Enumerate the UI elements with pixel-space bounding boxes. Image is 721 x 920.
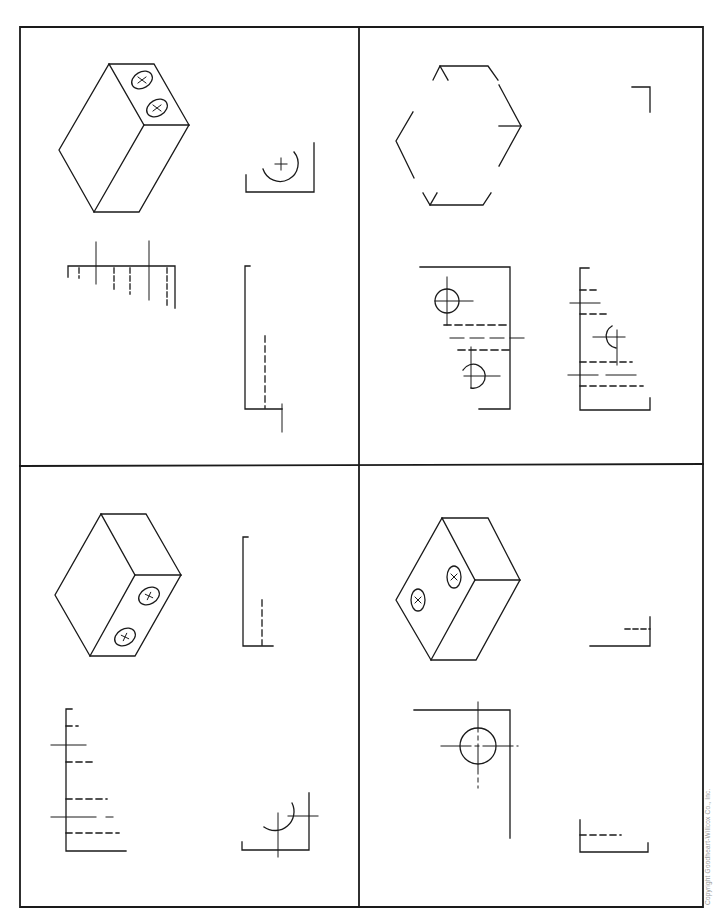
panel-2-side-view (568, 268, 650, 410)
panel-3-isometric-block (55, 514, 181, 656)
hole-arc (264, 803, 294, 831)
view-outline (68, 266, 175, 308)
panel-4-front-view (414, 702, 518, 838)
panel-4-side-view (580, 820, 648, 852)
view-outline (245, 266, 282, 409)
hole-1 (128, 68, 155, 93)
hole-x-marker-icon (451, 574, 457, 580)
panel-3-side-view (243, 537, 273, 646)
worksheet-sheet: Copyright Goodheart-Willcox Co., Inc. (0, 0, 721, 920)
hole-1 (447, 566, 461, 588)
panel-grid (20, 27, 703, 907)
view-outline (242, 793, 309, 850)
hidden-lines (79, 268, 167, 307)
hole-2 (143, 96, 170, 121)
panel-2-front-view (420, 267, 530, 409)
hole-cross-marker-icon (120, 632, 131, 643)
block-top-face (101, 514, 181, 575)
hole-x-marker-icon (415, 597, 421, 603)
copyright-notice: Copyright Goodheart-Willcox Co., Inc. (704, 789, 711, 906)
block-right-face (90, 575, 181, 656)
drawing-canvas (0, 0, 721, 920)
panel-1-top-view (246, 143, 314, 192)
hole-2 (111, 625, 138, 650)
hole-partial (463, 347, 500, 388)
panel-2-incomplete-isometric (396, 66, 521, 205)
outer-border (20, 27, 703, 907)
view-outline (580, 820, 648, 852)
block-left-face (59, 64, 144, 212)
view-outline (66, 709, 126, 851)
hole-cross-marker-icon (144, 591, 155, 602)
view-outline (590, 617, 650, 646)
panel-3-top-view (242, 793, 318, 857)
panel-1-front-view (68, 241, 175, 308)
panel-4 (396, 518, 650, 852)
horizontal-divider (20, 464, 703, 466)
view-outline (243, 537, 273, 646)
panel-2-corner-mark (632, 87, 650, 112)
view-outline (246, 143, 314, 192)
view-outline (414, 710, 510, 838)
block-top-face (442, 518, 520, 580)
panel-3 (51, 514, 318, 857)
center-mark-icon (275, 158, 287, 170)
hole-x-marker-icon (153, 105, 161, 111)
block-left-face (55, 514, 135, 656)
hole-1 (135, 584, 162, 609)
panel-1-isometric-block (59, 64, 189, 212)
hidden-lines (580, 290, 643, 386)
top-edge (433, 66, 498, 80)
block-right-face (431, 580, 520, 660)
left-edge (396, 112, 414, 178)
panel-4-isometric-block (396, 518, 520, 660)
panel-1-side-view (245, 266, 282, 432)
panel-3-front-view (51, 709, 126, 851)
hole-x-marker-icon (138, 77, 146, 83)
hole-full (435, 277, 473, 325)
hole-2 (411, 589, 425, 611)
panel-4-corner-view (590, 617, 650, 646)
block-right-face (94, 125, 189, 212)
block-left-face (396, 518, 475, 660)
panel-1 (59, 64, 314, 432)
view-outline (580, 268, 650, 410)
panel-2 (396, 66, 650, 410)
